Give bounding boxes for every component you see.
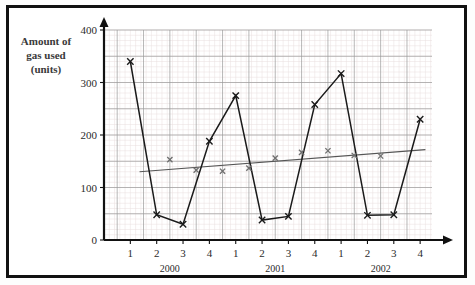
y-axis-tick-labels: 0100200300400	[81, 24, 105, 246]
trend-line	[140, 150, 426, 172]
figure-container: 0100200300400 123412341234 200020012002 …	[0, 0, 475, 285]
x-axis-year-label: 2000	[160, 263, 180, 274]
line-chart: 0100200300400 123412341234 200020012002 …	[0, 0, 475, 285]
x-axis-year-label: 2001	[265, 263, 285, 274]
y-tick-label: 300	[81, 77, 98, 89]
y-axis-title-line2: gas used	[26, 49, 65, 61]
x-tick-label: 4	[312, 247, 318, 259]
y-tick-label: 200	[81, 129, 98, 141]
y-axis-title-line3: (units)	[31, 63, 62, 76]
x-tick-label: 2	[365, 247, 371, 259]
x-tick-label: 2	[154, 247, 160, 259]
x-tick-label: 1	[233, 247, 239, 259]
y-tick-label: 400	[81, 24, 98, 36]
x-tick-label: 2	[259, 247, 265, 259]
y-tick-label: 100	[81, 182, 98, 194]
x-tick-label: 4	[417, 247, 423, 259]
x-tick-label: 3	[391, 247, 397, 259]
y-axis-title-line1: Amount of	[21, 35, 72, 47]
x-tick-label: 1	[338, 247, 344, 259]
x-tick-label: 3	[180, 247, 186, 259]
x-tick-label: 4	[207, 247, 213, 259]
y-tick-label: 0	[92, 234, 98, 246]
x-axis-year-label: 2002	[371, 263, 391, 274]
x-tick-label: 1	[128, 247, 134, 259]
x-tick-label: 3	[286, 247, 292, 259]
x-axis-tick-labels: 123412341234	[128, 240, 424, 259]
chart-plot-area: 0100200300400 123412341234 200020012002 …	[0, 0, 475, 285]
x-axis-year-labels: 200020012002	[160, 263, 391, 274]
